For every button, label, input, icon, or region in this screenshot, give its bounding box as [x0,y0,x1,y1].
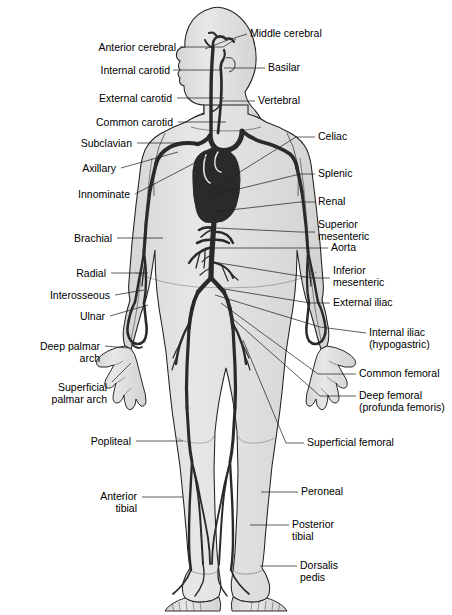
label-axillary: Axillary [82,162,116,174]
label-line: tibial [292,530,334,542]
label-aorta: Aorta [331,241,356,253]
label-line: Common carotid [96,116,173,128]
label-common-carotid: Common carotid [96,116,173,128]
label-line: Anterior cerebral [98,41,176,53]
label-line: Dorsalis [300,559,338,571]
label-middle-cerebral: Middle cerebral [250,27,322,39]
label-line: Posterior [292,518,334,530]
label-interosseous: Interosseous [50,289,110,301]
label-line: Deep femoral [359,389,445,401]
label-line: Vertebral [258,94,300,106]
arterial-system-diagram: Anterior cerebralInternal carotidExterna… [0,0,452,615]
label-line: Radial [76,267,106,279]
label-internal-iliac: Internal iliac(hypogastric) [369,326,430,351]
label-line: mesenteric [333,276,384,288]
label-deep-femoral: Deep femoral(profunda femoris) [359,389,445,414]
label-line: pedis [300,571,338,583]
label-line: Interosseous [50,289,110,301]
label-line: External carotid [99,92,172,104]
label-renal: Renal [318,195,345,207]
label-line: Aorta [331,241,356,253]
label-inferior-mesenteric: Inferiormesenteric [333,264,384,289]
label-internal-carotid: Internal carotid [101,64,170,76]
label-line: Common femoral [359,367,440,379]
artery-peroneal-right [219,462,230,564]
label-anterior-cerebral: Anterior cerebral [98,41,176,53]
label-line: Ulnar [80,310,105,322]
label-line: Deep palmar [40,340,100,352]
label-basilar: Basilar [268,61,300,73]
label-line: palmar arch [52,393,107,405]
label-line: (hypogastric) [369,338,430,350]
label-superficial-femoral: Superficial femoral [307,436,394,448]
label-line: tibial [100,502,137,514]
label-line: Splenic [318,167,352,179]
label-line: Basilar [268,61,300,73]
label-line: Subclavian [81,137,132,149]
label-line: Internal iliac [369,326,430,338]
label-peroneal: Peroneal [301,485,343,497]
label-deep-palmar-arch: Deep palmararch [40,340,100,365]
label-subclavian: Subclavian [81,137,132,149]
label-line: Superficial [52,381,107,393]
artery-anterior-tibial-right [230,462,233,570]
head-outline [176,7,262,121]
label-anterior-tibial: Anteriortibial [100,490,137,515]
label-posterior-tibial: Posteriortibial [292,518,334,543]
label-line: Middle cerebral [250,27,322,39]
label-line: Celiac [318,130,347,142]
label-line: Peroneal [301,485,343,497]
label-line: Renal [318,195,345,207]
label-ulnar: Ulnar [80,310,105,322]
label-line: External iliac [333,296,393,308]
label-celiac: Celiac [318,130,347,142]
label-line: Superior [318,218,369,230]
label-line: Inferior [333,264,384,276]
label-external-iliac: External iliac [333,296,393,308]
artery-popliteal-right [230,408,235,462]
label-line: Popliteal [91,435,131,447]
label-line: Axillary [82,162,116,174]
label-popliteal: Popliteal [91,435,131,447]
label-line: Innominate [78,188,130,200]
label-line: Brachial [74,232,112,244]
label-superior-mesenteric: Superiormesenteric [318,218,369,243]
label-common-femoral: Common femoral [359,367,440,379]
label-superficial-palmar-arch: Superficialpalmar arch [52,381,107,406]
right-hand [306,346,356,410]
label-innominate: Innominate [78,188,130,200]
label-line: Superficial femoral [307,436,394,448]
label-radial: Radial [76,267,106,279]
label-vertebral: Vertebral [258,94,300,106]
label-line: Internal carotid [101,64,170,76]
label-splenic: Splenic [318,167,352,179]
label-line: (profunda femoris) [359,401,445,413]
label-external-carotid: External carotid [99,92,172,104]
label-line: arch [40,352,100,364]
label-brachial: Brachial [74,232,112,244]
label-dorsalis-pedis: Dorsalispedis [300,559,338,584]
label-line: Anterior [100,490,137,502]
